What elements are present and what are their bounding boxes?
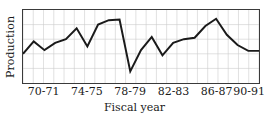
y-axis-label: Production <box>4 15 17 77</box>
chart-figure: Production 70-7174-7578-7982-8386-8790-9… <box>0 0 269 121</box>
plot-area <box>22 9 260 84</box>
x-axis-label: Fiscal year <box>0 101 269 114</box>
x-axis-tick-label: 74-75 <box>71 85 103 98</box>
vertical-gridlines <box>23 10 259 83</box>
x-axis-tick-labels: 70-7174-7578-7982-8386-8790-91 <box>22 85 260 100</box>
x-axis-tick-label: 78-79 <box>114 85 146 98</box>
plot-svg <box>23 10 259 83</box>
x-axis-tick-label: 82-83 <box>158 85 190 98</box>
x-axis-tick-label: 90-91 <box>233 85 265 98</box>
production-line-series <box>23 19 259 72</box>
x-axis-tick-label: 86-87 <box>201 85 233 98</box>
x-axis-tick-label: 70-71 <box>28 85 60 98</box>
y-axis-label-container: Production <box>0 9 20 84</box>
